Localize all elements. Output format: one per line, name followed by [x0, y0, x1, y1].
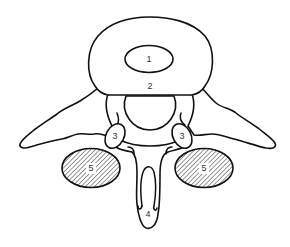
- vertebra-diagram: 1 2 3 3 4 5 5: [0, 0, 290, 247]
- label-3-right: 3: [179, 131, 184, 141]
- label-2: 2: [147, 81, 152, 91]
- spinal-canal: [124, 96, 175, 130]
- label-5-right: 5: [201, 163, 206, 173]
- label-3-left: 3: [112, 131, 117, 141]
- label-4: 4: [145, 209, 150, 219]
- left-transverse-process: [20, 86, 112, 148]
- right-transverse-process: [188, 86, 275, 148]
- label-1: 1: [146, 54, 151, 64]
- label-5-left: 5: [88, 163, 93, 173]
